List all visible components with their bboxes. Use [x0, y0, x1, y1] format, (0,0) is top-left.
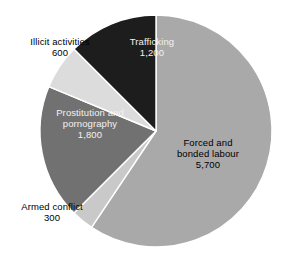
- pie-chart: Illicit activities 600 Trafficking 1,200…: [0, 0, 283, 257]
- pie-chart-graphic: [0, 0, 283, 257]
